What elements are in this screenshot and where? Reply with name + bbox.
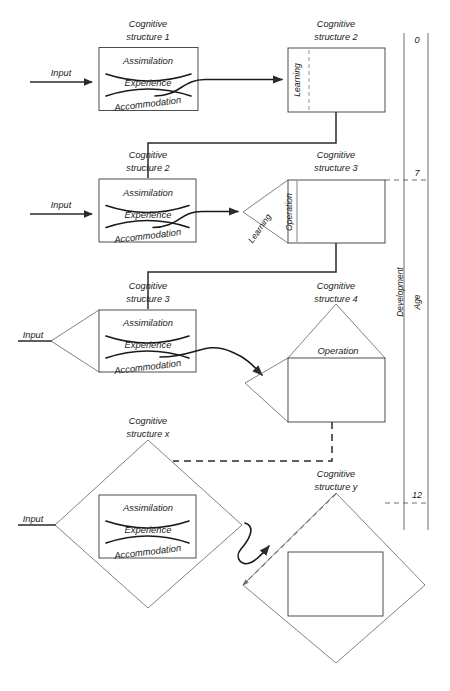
stage-1-learning-band-label: Learning: [292, 63, 302, 97]
stage-1-experience-label: Experience: [125, 77, 172, 88]
stage-3-source-title-line1: Cognitive: [129, 281, 167, 291]
axis-tick-0: 0: [414, 35, 420, 45]
stage-4-target-title-line1: Cognitive: [317, 469, 355, 479]
stage-1-target-title-line1: Cognitive: [317, 19, 355, 29]
stage-1-target-title-line2: structure 2: [314, 32, 357, 42]
stage-3-target-title-line2: structure 4: [314, 294, 357, 304]
stage-2-input-label: Input: [51, 200, 72, 210]
stage-1-source-title-line1: Cognitive: [129, 19, 167, 29]
stage-1-input-label: Input: [51, 68, 72, 78]
stage-3-input-label: Input: [23, 330, 44, 340]
stage-4-assimilation-label: Assimilation: [122, 502, 173, 513]
stage-4-source-title-line1: Cognitive: [129, 416, 167, 426]
stage-2-experience-label: Experience: [125, 209, 172, 220]
stage-1-assimilation-label: Assimilation: [122, 55, 173, 66]
stage-2-operation-band-label: Operation: [284, 193, 294, 231]
stage-1-source-title-line2: structure 1: [126, 32, 169, 42]
stage-1-target-box: [288, 48, 385, 112]
stage-3-target-structure: [245, 304, 385, 422]
stage-1-learning-connector: [155, 80, 282, 97]
stage-3-to-stage-4-dashed-elbow: [173, 422, 332, 461]
stage-2-target-title-line2: structure 3: [314, 163, 358, 173]
stage-4-group: [18, 440, 425, 663]
stage-4-target-title-line2: structure y: [315, 482, 359, 492]
stage-3-group: [18, 304, 385, 461]
axis-development-label: Development: [395, 267, 405, 317]
stage-2-assimilation-label: Assimilation: [122, 187, 173, 198]
stage-1-to-stage-2-elbow: [148, 112, 336, 178]
axis-age-label: Age: [412, 294, 422, 310]
development-age-axis: [385, 33, 428, 530]
stage-4-source-title-line2: structure x: [127, 429, 170, 439]
axis-tick-12: 12: [412, 490, 422, 500]
stage-3-experience-label: Experience: [125, 339, 172, 350]
stage-4-experience-label: Experience: [125, 524, 172, 535]
stage-3-operation-label: Operation: [317, 345, 358, 356]
stage-3-target-title-line1: Cognitive: [317, 281, 355, 291]
cognitive-development-diagram: Cognitive structure 1 Input Assimilation…: [0, 0, 450, 691]
figure-canvas: Cognitive structure 1 Input Assimilation…: [0, 0, 450, 691]
stage-2-target-title-line1: Cognitive: [317, 150, 355, 160]
stage-3-source-title-line2: structure 3: [126, 294, 170, 304]
stage-4-target-structure: [243, 493, 425, 663]
stage-3-assimilation-label: Assimilation: [122, 317, 173, 328]
stage-2-source-title-line2: structure 2: [126, 163, 169, 173]
stage-4-input-label: Input: [23, 514, 44, 524]
stage-3-accommodation-label: Accommodation: [113, 357, 182, 376]
axis-tick-7: 7: [414, 168, 420, 178]
stage-2-to-stage-3-elbow: [148, 243, 336, 309]
stage-2-source-title-line1: Cognitive: [129, 150, 167, 160]
